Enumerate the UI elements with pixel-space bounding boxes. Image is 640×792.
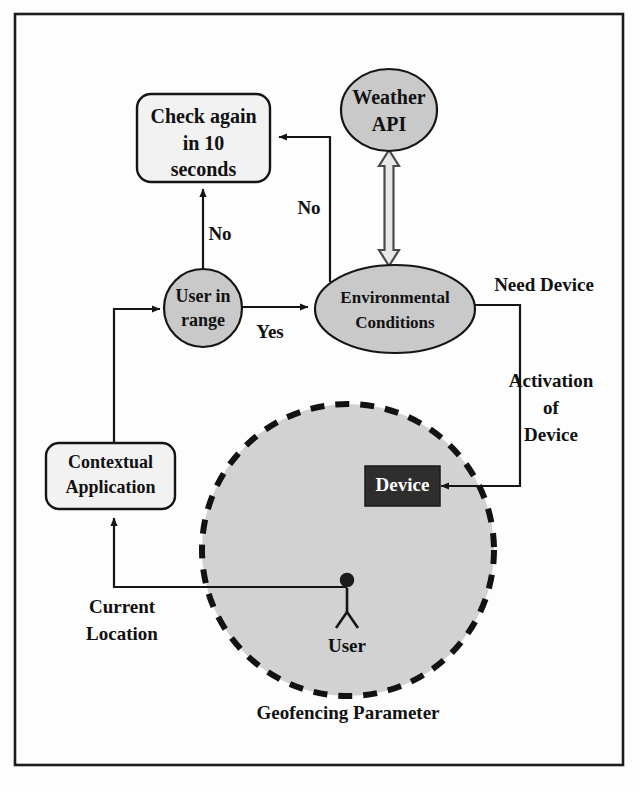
- environmental-conditions-label-line2: Conditions: [355, 313, 435, 332]
- flowchart-diagram: Check again in 10 seconds Weather API Us…: [0, 0, 640, 792]
- check-again-label-line2: in 10: [183, 132, 225, 154]
- node-weather-api[interactable]: Weather API: [341, 69, 437, 151]
- user-in-range-label-line1: User in: [175, 286, 230, 306]
- user-head-icon: [341, 574, 354, 587]
- edge-label-user-in-range-no: No: [208, 223, 231, 244]
- node-contextual-application[interactable]: Contextual Application: [46, 443, 175, 509]
- geofence-label: Geofencing Parameter: [256, 702, 440, 723]
- edge-label-activation-line2: of: [543, 397, 560, 418]
- weather-api-label-line1: Weather: [352, 86, 425, 108]
- edge-label-activation-line3: Device: [524, 424, 578, 445]
- check-again-label-line1: Check again: [150, 105, 256, 128]
- edge-label-need-device: Need Device: [494, 274, 594, 295]
- node-user-in-range[interactable]: User in range: [164, 269, 242, 347]
- contextual-application-label-line2: Application: [65, 477, 155, 497]
- contextual-application-label-line1: Contextual: [68, 452, 153, 472]
- weather-api-ellipse[interactable]: [341, 69, 437, 151]
- edge-contextual-to-user-in-range: [114, 309, 160, 443]
- edge-label-user-in-range-yes: Yes: [256, 321, 283, 342]
- device-label: Device: [376, 474, 430, 495]
- edge-weather-api-link: [379, 150, 399, 266]
- node-device[interactable]: Device: [365, 466, 440, 506]
- environmental-conditions-label-line1: Environmental: [340, 288, 450, 307]
- user-in-range-label-line2: range: [181, 310, 225, 330]
- node-environmental-conditions[interactable]: Environmental Conditions: [315, 265, 475, 353]
- diagram-canvas: Check again in 10 seconds Weather API Us…: [0, 0, 640, 792]
- check-again-label-line3: seconds: [171, 158, 237, 180]
- user-in-range-circle[interactable]: [164, 269, 242, 347]
- edge-label-activation-line1: Activation: [509, 370, 594, 391]
- edge-label-current-location-line2: Location: [86, 623, 158, 644]
- node-check-again[interactable]: Check again in 10 seconds: [137, 94, 270, 182]
- user-actor-label: User: [328, 635, 367, 656]
- edge-label-current-location-line1: Current: [89, 596, 156, 617]
- edge-label-env-conditions-no: No: [297, 197, 320, 218]
- weather-api-label-line2: API: [372, 113, 407, 135]
- environmental-conditions-ellipse[interactable]: [315, 265, 475, 353]
